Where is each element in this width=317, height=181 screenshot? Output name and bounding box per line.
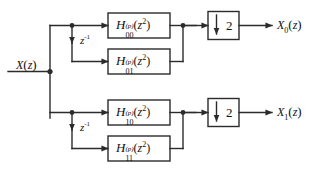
diagram-wiring: [0, 0, 317, 181]
filter-h00-argument: (z2): [134, 18, 151, 31]
delay-label-lower: z-1: [80, 121, 90, 133]
downsampler-box-lower: [208, 99, 239, 127]
node-tap-upper: [70, 23, 75, 28]
filter-h11-subscript: 11: [125, 155, 133, 163]
input-label: X(z): [16, 58, 37, 71]
node-join-lower: [181, 110, 186, 115]
node-input-split: [47, 69, 52, 74]
downsampler-lower-factor: 2: [226, 106, 233, 119]
filter-h11-symbol: H: [116, 141, 125, 154]
filter-label-h10: H(p)10(z2): [116, 105, 150, 126]
filter-h10-symbol: H: [116, 105, 125, 118]
node-join-upper: [181, 23, 186, 28]
filter-label-h00: H(p)00(z2): [116, 18, 150, 39]
delay-upper-exponent: -1: [84, 33, 90, 41]
filter-h10-superscript: (p): [125, 110, 133, 117]
filter-h00-superscript: (p): [125, 23, 133, 30]
output-label-x1: X1(z): [277, 105, 302, 122]
filter-h00-subscript: 00: [125, 32, 133, 40]
filter-h01-subscript: 01: [125, 68, 133, 76]
filter-h01-superscript: (p): [125, 59, 133, 66]
delay-lower-exponent: -1: [84, 120, 90, 128]
filter-h11-argument: (z2): [134, 141, 151, 154]
input-label-arg: (z): [23, 57, 36, 72]
filter-h00-symbol: H: [116, 18, 125, 31]
filter-label-h01: H(p)01(z2): [116, 54, 150, 75]
downsampler-upper-factor: 2: [226, 19, 233, 32]
delay-label-upper: z-1: [80, 34, 90, 46]
filter-label-h11: H(p)11(z2): [116, 141, 150, 162]
filter-h11-superscript: (p): [125, 146, 133, 153]
block-diagram: X(z) z-1 z-1 H(p)00(z2) H(p)01(z2) H(p)1…: [0, 0, 317, 181]
downsampler-box-upper: [208, 12, 239, 40]
filter-h10-subscript: 10: [125, 119, 133, 127]
filter-h01-argument: (z2): [134, 54, 151, 67]
filter-h01-symbol: H: [116, 54, 125, 67]
node-tap-lower: [70, 110, 75, 115]
output-label-x0: X0(z): [277, 18, 302, 35]
filter-h10-argument: (z2): [134, 105, 151, 118]
